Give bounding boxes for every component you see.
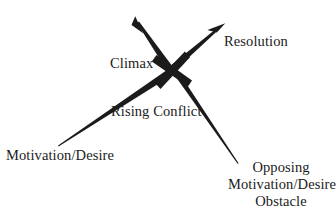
label-rising-conflict: Rising Conflict [111, 103, 202, 120]
label-motivation-desire: Motivation/Desire [6, 147, 114, 164]
label-opposing-line-1: Opposing [228, 159, 334, 176]
label-opposing-obstacle-block: Opposing Motivation/Desire Obstacle [228, 159, 334, 210]
label-opposing-line-2: Motivation/Desire [228, 176, 334, 193]
climax-crossing-knot [152, 52, 192, 90]
label-resolution: Resolution [224, 33, 288, 50]
rising-conflict-arrowhead-icon [132, 16, 144, 33]
label-climax: Climax [110, 55, 153, 72]
story-structure-diagram: Climax Resolution Rising Conflict Motiva… [0, 0, 336, 212]
resolution-arrowhead-icon [207, 23, 225, 32]
label-opposing-line-3: Obstacle [228, 193, 334, 210]
